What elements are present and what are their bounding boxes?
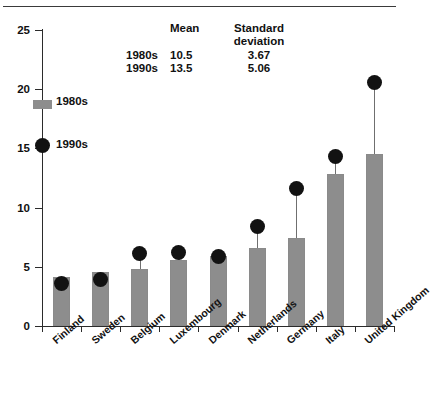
x-tick-mark xyxy=(238,326,239,332)
dot-1990s xyxy=(132,246,147,261)
bar-1980s xyxy=(170,260,187,326)
x-tick-mark xyxy=(81,326,82,332)
stats-header-sd-line1: Standard xyxy=(234,22,284,34)
stats-row-label-1980s: 1980s xyxy=(126,49,170,62)
x-tick-mark xyxy=(159,326,160,332)
stats-mean-1990s: 13.5 xyxy=(170,62,222,75)
stats-corner-cell xyxy=(126,22,170,49)
legend-swatch-1980s xyxy=(33,100,52,109)
dot-1990s xyxy=(211,249,226,264)
stats-header-mean: Mean xyxy=(170,22,222,49)
stats-row-1980s: 1980s 10.5 3.67 xyxy=(126,49,296,62)
y-tick-label: 0 xyxy=(0,320,30,332)
x-tick-mark xyxy=(120,326,121,332)
stats-row-label-1990s: 1990s xyxy=(126,62,170,75)
dot-stem xyxy=(296,189,297,239)
dot-stem xyxy=(374,82,375,154)
dot-1990s xyxy=(289,181,304,196)
x-tick-mark xyxy=(394,326,395,332)
stats-row-1990s: 1990s 13.5 5.06 xyxy=(126,62,296,75)
x-tick-mark xyxy=(198,326,199,332)
y-tick-label: 20 xyxy=(0,83,30,95)
bar-1980s xyxy=(327,174,344,326)
x-tick-mark xyxy=(42,326,43,332)
stats-header-sd: Standard deviation xyxy=(222,22,296,49)
dot-1990s xyxy=(171,245,186,260)
y-tick-mark xyxy=(35,30,42,31)
y-tick-label: 5 xyxy=(0,261,30,273)
y-axis-line xyxy=(42,29,43,327)
bar-1980s xyxy=(366,154,383,326)
bar-1980s xyxy=(210,256,227,326)
stats-sd-1980s: 3.67 xyxy=(222,49,296,62)
y-tick-label: 25 xyxy=(0,24,30,36)
stats-mean-1980s: 10.5 xyxy=(170,49,222,62)
bar-1980s xyxy=(249,248,266,326)
bar-1980s xyxy=(131,269,148,326)
legend-marker-1990s-icon xyxy=(35,138,50,153)
y-tick-mark xyxy=(35,326,42,327)
y-tick-mark xyxy=(35,267,42,268)
summary-stats-table: Mean Standard deviation 1980s 10.5 3.67 … xyxy=(126,22,296,75)
dot-1990s xyxy=(328,149,343,164)
legend-label-1990s: 1990s xyxy=(56,138,88,150)
dot-1990s xyxy=(54,276,69,291)
y-tick-label: 10 xyxy=(0,202,30,214)
stats-sd-1990s: 5.06 xyxy=(222,62,296,75)
x-tick-mark xyxy=(277,326,278,332)
dot-1990s xyxy=(250,219,265,234)
x-tick-mark xyxy=(355,326,356,332)
dot-1990s xyxy=(367,75,382,90)
stats-header-sd-line2: deviation xyxy=(234,35,284,47)
y-tick-label: 15 xyxy=(0,142,30,154)
y-tick-mark xyxy=(35,208,42,209)
y-tick-mark xyxy=(35,89,42,90)
x-tick-mark xyxy=(316,326,317,332)
legend-label-1980s: 1980s xyxy=(56,95,88,107)
